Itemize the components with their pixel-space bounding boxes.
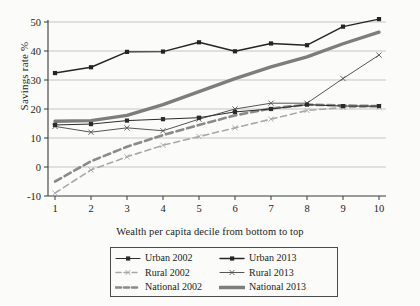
data-point-marker (233, 49, 237, 53)
series-line (55, 19, 379, 73)
data-point-marker (53, 123, 57, 127)
data-point-marker (376, 52, 381, 57)
savings-rate-chart: Savings rate % -1001020304050 1234567891… (0, 0, 420, 306)
legend-swatch-urban-2013 (219, 253, 245, 264)
data-point-marker (125, 50, 129, 54)
chart-legend: Urban 2002Urban 2013Rural 2002Rural 2013… (110, 247, 338, 297)
legend-label: National 2013 (249, 282, 306, 292)
y-tick-label: 40 (31, 46, 42, 57)
legend-label: Rural 2013 (249, 268, 294, 278)
legend-swatch-national-2002 (115, 282, 141, 293)
legend-swatch-national-2013 (219, 282, 245, 293)
data-point-marker (52, 191, 57, 196)
x-tick-label: 1 (52, 203, 57, 214)
data-point-marker (53, 71, 57, 75)
x-tick-label: 8 (304, 203, 309, 214)
y-tick-label: 30 (31, 75, 42, 86)
legend-item-national-2013[interactable]: National 2013 (219, 282, 343, 293)
legend-label: National 2002 (145, 282, 202, 292)
legend-item-national-2002[interactable]: National 2002 (115, 282, 219, 293)
legend-item-urban-2002[interactable]: Urban 2002 (115, 253, 219, 264)
data-point-marker (197, 116, 201, 120)
y-tick-label: 50 (31, 17, 42, 28)
legend-label: Urban 2002 (145, 253, 193, 263)
legend-label: Rural 2002 (145, 268, 190, 278)
data-point-marker (161, 49, 165, 53)
data-point-marker (341, 104, 345, 108)
x-axis: 12345678910 (48, 196, 386, 214)
data-point-marker (89, 65, 93, 69)
y-tick-label: -10 (27, 191, 41, 202)
legend-item-urban-2013[interactable]: Urban 2013 (219, 253, 343, 264)
grid-lines (48, 22, 386, 167)
series-line (55, 55, 379, 132)
data-series (52, 17, 381, 196)
data-point-marker (89, 122, 93, 126)
series-line (55, 105, 379, 182)
legend-swatch-rural-2002 (115, 267, 141, 278)
data-point-marker (197, 40, 201, 44)
legend-item-rural-2002[interactable]: Rural 2002 (115, 267, 219, 278)
y-tick-label: 0 (36, 162, 41, 173)
legend-swatch-urban-2002 (115, 253, 141, 264)
series-line (55, 105, 379, 125)
x-tick-label: 3 (124, 203, 129, 214)
x-tick-label: 6 (232, 203, 237, 214)
y-axis: -1001020304050 (27, 17, 48, 202)
x-tick-label: 9 (340, 203, 345, 214)
data-point-marker (125, 119, 129, 123)
data-point-marker (269, 41, 273, 45)
data-point-marker (305, 103, 309, 107)
data-point-marker (341, 25, 345, 29)
data-point-marker (161, 117, 165, 121)
y-tick-label: 20 (31, 104, 42, 115)
x-tick-label: 7 (268, 203, 273, 214)
x-axis-label: Wealth per capita decile from bottom to … (0, 226, 420, 237)
data-point-marker (269, 107, 273, 111)
data-point-marker (305, 43, 309, 47)
data-point-marker (233, 110, 237, 114)
data-point-marker (377, 17, 381, 21)
y-tick-label: 10 (31, 133, 42, 144)
x-tick-label: 5 (196, 203, 201, 214)
data-point-marker (377, 104, 381, 108)
legend-item-rural-2013[interactable]: Rural 2013 (219, 267, 343, 278)
legend-label: Urban 2013 (249, 253, 297, 263)
legend-swatch-rural-2013 (219, 267, 245, 278)
x-tick-label: 2 (88, 203, 93, 214)
x-tick-label: 10 (374, 203, 385, 214)
x-tick-label: 4 (160, 203, 166, 214)
